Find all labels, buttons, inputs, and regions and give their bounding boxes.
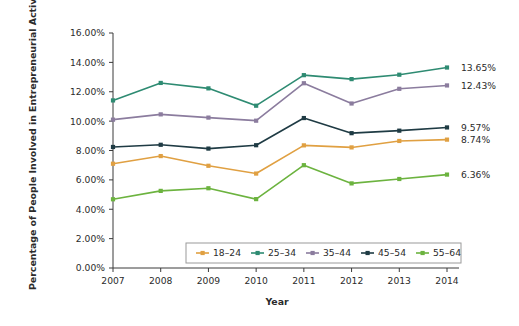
chart-legend: 18–2425–3435–4445–5455–64 bbox=[186, 243, 461, 263]
y-tick-label: 8.00% bbox=[76, 145, 105, 156]
data-point bbox=[397, 87, 401, 91]
y-tick-label: 6.00% bbox=[76, 174, 105, 185]
data-point bbox=[349, 77, 353, 81]
line-chart: 0.00%2.00%4.00%6.00%8.00%10.00%12.00%14.… bbox=[0, 0, 519, 326]
y-tick-label: 10.00% bbox=[70, 116, 105, 127]
data-point bbox=[349, 101, 353, 105]
x-axis-title: Year bbox=[264, 296, 289, 307]
data-point bbox=[111, 118, 115, 122]
legend-marker bbox=[366, 251, 370, 255]
data-point bbox=[159, 154, 163, 158]
data-point bbox=[445, 83, 449, 87]
data-point bbox=[302, 81, 306, 85]
data-point bbox=[302, 116, 306, 120]
data-point bbox=[111, 98, 115, 102]
y-tick-label: 2.00% bbox=[76, 233, 105, 244]
y-axis-tick-labels: 0.00%2.00%4.00%6.00%8.00%10.00%12.00%14.… bbox=[70, 27, 105, 273]
data-point bbox=[159, 189, 163, 193]
chart-axes bbox=[109, 33, 459, 272]
series-2 bbox=[111, 81, 449, 123]
x-tick-label: 2013 bbox=[388, 275, 412, 286]
x-tick-label: 2011 bbox=[292, 275, 315, 286]
end-label-1: 13.65% bbox=[461, 62, 496, 73]
data-point bbox=[302, 163, 306, 167]
data-point bbox=[206, 186, 210, 190]
y-axis-title: Percentage of People Involved in Entrepr… bbox=[27, 0, 38, 290]
data-point bbox=[445, 172, 449, 176]
legend-marker bbox=[201, 251, 205, 255]
legend-label: 55–64 bbox=[433, 247, 461, 258]
x-tick-label: 2012 bbox=[340, 275, 363, 286]
data-point bbox=[397, 177, 401, 181]
end-label-3: 9.57% bbox=[461, 122, 490, 133]
data-point bbox=[349, 181, 353, 185]
data-point bbox=[159, 143, 163, 147]
data-point bbox=[349, 145, 353, 149]
data-point bbox=[349, 131, 353, 135]
data-point bbox=[445, 125, 449, 129]
data-point bbox=[397, 139, 401, 143]
x-tick-label: 2008 bbox=[149, 275, 173, 286]
legend-label: 45–54 bbox=[378, 247, 406, 258]
legend-label: 18–24 bbox=[213, 247, 241, 258]
chart-container: 0.00%2.00%4.00%6.00%8.00%10.00%12.00%14.… bbox=[0, 0, 519, 326]
data-point bbox=[206, 116, 210, 120]
data-point bbox=[159, 81, 163, 85]
end-label-0: 8.74% bbox=[461, 134, 490, 145]
data-point bbox=[206, 86, 210, 90]
data-point bbox=[206, 146, 210, 150]
data-point bbox=[254, 171, 258, 175]
legend-marker bbox=[311, 251, 315, 255]
legend-marker bbox=[256, 251, 260, 255]
data-point bbox=[111, 162, 115, 166]
series-line bbox=[113, 118, 447, 149]
data-point bbox=[159, 112, 163, 116]
data-series-group bbox=[111, 65, 449, 201]
y-tick-label: 16.00% bbox=[70, 27, 105, 38]
y-tick-label: 12.00% bbox=[70, 86, 105, 97]
x-tick-label: 2014 bbox=[435, 275, 459, 286]
x-tick-label: 2007 bbox=[101, 275, 125, 286]
data-point bbox=[254, 104, 258, 108]
data-point bbox=[445, 138, 449, 142]
data-point bbox=[302, 73, 306, 77]
data-point bbox=[206, 164, 210, 168]
series-line bbox=[113, 83, 447, 120]
end-label-4: 6.36% bbox=[461, 169, 490, 180]
data-point bbox=[302, 143, 306, 147]
legend-label: 35–44 bbox=[323, 247, 351, 258]
data-point bbox=[111, 145, 115, 149]
data-point bbox=[254, 143, 258, 147]
data-point bbox=[397, 73, 401, 77]
y-tick-label: 4.00% bbox=[76, 204, 105, 215]
y-tick-label: 14.00% bbox=[70, 57, 105, 68]
x-tick-label: 2009 bbox=[197, 275, 221, 286]
series-line bbox=[113, 68, 447, 106]
series-line bbox=[113, 165, 447, 199]
x-axis-tick-labels: 20072008200920102011201220132014 bbox=[101, 275, 459, 286]
x-tick-label: 2010 bbox=[244, 275, 268, 286]
end-label-2: 12.43% bbox=[461, 80, 496, 91]
data-point bbox=[254, 119, 258, 123]
data-point bbox=[111, 197, 115, 201]
y-tick-label: 0.00% bbox=[76, 262, 105, 273]
legend-marker bbox=[421, 251, 425, 255]
data-point bbox=[445, 65, 449, 69]
data-point bbox=[254, 197, 258, 201]
data-point bbox=[397, 129, 401, 133]
legend-label: 25–34 bbox=[268, 247, 296, 258]
series-4 bbox=[111, 163, 449, 201]
series-3 bbox=[111, 116, 449, 151]
series-end-labels: 8.74%13.65%12.43%9.57%6.36% bbox=[461, 62, 496, 180]
